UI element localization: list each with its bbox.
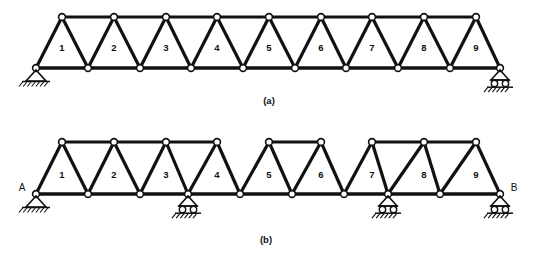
top-node-2 — [111, 14, 118, 21]
panel-number-4: 4 — [214, 42, 220, 53]
bottom-node-7 — [343, 65, 350, 72]
top-node-9 — [473, 139, 480, 146]
top-node-7 — [369, 139, 376, 146]
top-node-8 — [421, 14, 428, 21]
bottom-node-7 — [341, 191, 348, 198]
top-node-3 — [163, 139, 170, 146]
panel-number-5: 5 — [266, 42, 272, 53]
top-node-9 — [473, 14, 480, 21]
panel-number-9: 9 — [473, 42, 478, 53]
bottom-node-9 — [447, 65, 454, 72]
support-roller-2-roller-right — [502, 80, 508, 86]
bottom-node-3 — [137, 191, 144, 198]
top-node-6 — [318, 139, 325, 146]
support-roller-3-roller-right — [390, 206, 396, 212]
top-node-8 — [421, 139, 428, 146]
bottom-node-3 — [137, 65, 144, 72]
top-node-1 — [59, 139, 66, 146]
support-roller-4-roller-right — [502, 206, 508, 212]
panel-number-3: 3 — [163, 169, 168, 180]
top-node-5 — [266, 139, 273, 146]
bottom-node-5 — [237, 191, 244, 198]
panel-number-1: 1 — [59, 169, 65, 180]
panel-number-2: 2 — [111, 42, 116, 53]
panel-number-5: 5 — [266, 169, 272, 180]
support-roller-2-roller-left — [179, 206, 185, 212]
node-label-b: B — [511, 182, 518, 193]
panel-number-9: 9 — [473, 169, 478, 180]
bottom-node-5 — [240, 65, 247, 72]
support-roller-3-roller-left — [379, 206, 385, 212]
bottom-node-2 — [85, 65, 92, 72]
panel-number-2: 2 — [111, 169, 116, 180]
panel-number-7: 7 — [369, 169, 374, 180]
top-node-4 — [214, 14, 221, 21]
panel-number-6: 6 — [318, 42, 323, 53]
top-node-5 — [266, 14, 273, 21]
panel-number-8: 8 — [421, 169, 426, 180]
support-roller-4-roller-left — [491, 206, 497, 212]
figure-background — [0, 0, 538, 256]
panel-number-6: 6 — [318, 169, 323, 180]
top-node-7 — [369, 14, 376, 21]
bottom-node-6 — [289, 191, 296, 198]
bottom-node-2 — [85, 191, 92, 198]
bottom-node-9 — [437, 191, 444, 198]
support-roller-2-roller-left — [491, 80, 497, 86]
subfigure-caption-b: (b) — [260, 234, 272, 245]
panel-number-8: 8 — [421, 42, 426, 53]
bottom-node-4 — [188, 65, 195, 72]
top-node-1 — [59, 14, 66, 21]
panel-number-7: 7 — [369, 42, 374, 53]
truss-diagram-svg: 123456789(a) 123456789AB(b) — [0, 0, 538, 256]
subfigure-caption-a: (a) — [263, 95, 275, 106]
panel-number-4: 4 — [214, 169, 220, 180]
bottom-node-6 — [292, 65, 299, 72]
top-node-4 — [214, 139, 221, 146]
truss-figure: 123456789(a) 123456789AB(b) — [0, 0, 538, 256]
bottom-node-8 — [395, 65, 402, 72]
top-node-6 — [318, 14, 325, 21]
panel-number-1: 1 — [59, 42, 65, 53]
top-node-2 — [111, 139, 118, 146]
top-node-3 — [163, 14, 170, 21]
support-roller-2-roller-right — [190, 206, 196, 212]
node-label-a: A — [19, 182, 26, 193]
panel-number-3: 3 — [163, 42, 168, 53]
